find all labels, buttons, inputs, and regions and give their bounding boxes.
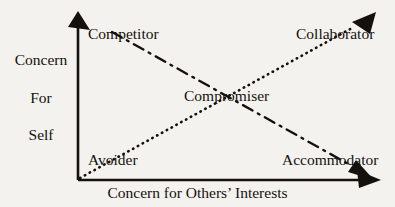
- label-compromiser: Compromiser: [184, 88, 269, 104]
- label-avoider: Avoider: [88, 152, 138, 168]
- y-axis-title-line-3: Self: [8, 127, 74, 143]
- label-competitor: Competitor: [88, 26, 159, 42]
- y-axis-title-line-2: For: [8, 90, 74, 106]
- y-axis-title-line-1: Concern: [8, 52, 74, 68]
- x-axis-title: Concern for Others’ Interests: [0, 184, 395, 202]
- y-axis-arrowhead-icon: [68, 11, 90, 30]
- y-axis-title: Concern For Self: [8, 52, 74, 165]
- conflict-modes-diagram: Concern For Self Concern for Others’ Int…: [0, 0, 395, 207]
- label-collaborator: Collaborator: [296, 26, 374, 42]
- label-accommodator: Accommodator: [282, 152, 378, 168]
